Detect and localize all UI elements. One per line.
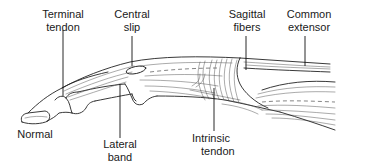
label-common-extensor-line1: Common [280,8,338,21]
label-sagittal-fibers-line1: Sagittal [222,8,272,21]
label-lateral-band-line1: Lateral [98,138,142,151]
fingertip-drawing [21,72,108,124]
common-extensor-drawing [240,58,330,72]
middle-phalanx-drawing [78,84,132,101]
label-sagittal-fibers-line2: fibers [222,21,272,34]
dip-joint-drawing [55,92,95,114]
label-intrinsic-tendon-line1: Intrinsic [192,132,246,145]
label-central-slip-line1: Central [110,8,154,21]
label-common-extensor: Common extensor [280,8,338,34]
label-central-slip-line2: slip [110,21,154,34]
central-slip-shape [125,64,146,75]
label-intrinsic-tendon: Intrinsic tendon [192,132,246,158]
label-terminal-tendon: Terminal tendon [34,8,92,34]
extensor-hood-drawing [62,57,240,100]
label-terminal-tendon-line1: Terminal [34,8,92,21]
label-central-slip: Central slip [110,8,154,34]
label-lateral-band: Lateral band [98,138,142,164]
label-normal-line1: Normal [12,128,58,141]
label-terminal-tendon-line2: tendon [34,21,92,34]
label-sagittal-fibers: Sagittal fibers [222,8,272,34]
label-common-extensor-line2: extensor [280,21,338,34]
intrinsic-muscle-drawing [222,81,335,130]
label-lateral-band-line2: band [98,151,142,164]
label-normal: Normal [12,128,58,141]
label-intrinsic-tendon-line2: tendon [192,145,246,158]
